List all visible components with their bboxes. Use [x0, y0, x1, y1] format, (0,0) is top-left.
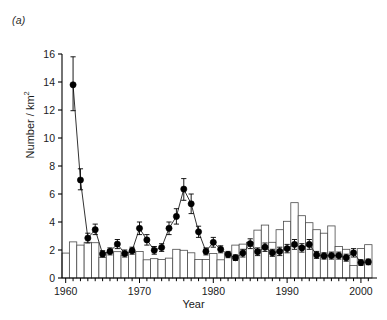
data-point	[262, 244, 268, 250]
data-point	[247, 241, 253, 247]
data-point	[92, 227, 98, 233]
data-point	[129, 248, 135, 254]
data-point	[114, 241, 120, 247]
data-point	[350, 250, 356, 256]
data-point	[269, 250, 275, 256]
bar	[173, 249, 180, 278]
figure-panel-a: (a) Number / km2 Year 024681012141619601…	[0, 0, 387, 320]
x-tick-label: 2000	[349, 285, 373, 297]
y-tick-label: 12	[43, 104, 55, 116]
bar	[232, 245, 239, 278]
data-point	[181, 186, 187, 192]
data-point	[100, 251, 106, 257]
bar	[195, 260, 202, 278]
bar	[217, 260, 224, 278]
data-point	[328, 253, 334, 259]
data-point	[277, 248, 283, 254]
y-tick-label: 10	[43, 132, 55, 144]
x-tick-label: 1990	[275, 285, 299, 297]
data-point	[136, 225, 142, 231]
bar	[99, 257, 106, 278]
y-tick-label: 4	[49, 216, 55, 228]
data-point	[365, 259, 371, 265]
x-tick-label: 1960	[54, 285, 78, 297]
data-point	[358, 260, 364, 266]
bar	[128, 253, 135, 278]
y-tick-label: 8	[49, 160, 55, 172]
data-point	[188, 201, 194, 207]
x-tick-label: 1970	[128, 285, 152, 297]
data-point	[299, 245, 305, 251]
data-point	[77, 177, 83, 183]
bar	[151, 259, 158, 278]
bar	[69, 242, 76, 278]
chart-plot-area: 024681012141619601970198019902000	[0, 0, 387, 320]
y-tick-label: 16	[43, 48, 55, 60]
bar	[187, 253, 194, 278]
bar	[202, 260, 209, 278]
y-tick-label: 6	[49, 188, 55, 200]
bar	[143, 260, 150, 278]
data-point	[203, 248, 209, 254]
bar	[269, 242, 276, 278]
bar	[114, 252, 121, 278]
bar-series	[62, 203, 372, 278]
data-point	[255, 249, 261, 255]
bar	[121, 255, 128, 278]
bar	[350, 265, 357, 278]
data-point	[306, 241, 312, 247]
data-point	[232, 255, 238, 261]
y-tick-label: 0	[49, 272, 55, 284]
data-point	[225, 251, 231, 257]
data-point	[218, 246, 224, 252]
data-point	[195, 229, 201, 235]
data-point	[336, 253, 342, 259]
data-point	[210, 239, 216, 245]
bar	[106, 253, 113, 278]
x-tick-label: 1980	[202, 285, 226, 297]
bar	[165, 258, 172, 278]
data-point	[240, 250, 246, 256]
data-point	[173, 213, 179, 219]
data-point	[291, 241, 297, 247]
bar	[62, 253, 69, 278]
data-point	[107, 248, 113, 254]
bar	[92, 243, 99, 278]
bar	[136, 251, 143, 278]
data-point	[166, 225, 172, 231]
data-point	[144, 237, 150, 243]
data-point	[314, 252, 320, 258]
bar	[210, 254, 217, 279]
data-point	[284, 246, 290, 252]
bar	[306, 223, 313, 278]
bar	[342, 249, 349, 278]
bar	[84, 242, 91, 278]
bar	[180, 250, 187, 278]
data-point	[321, 253, 327, 259]
y-tick-label: 14	[43, 76, 55, 88]
data-point	[122, 250, 128, 256]
data-point	[85, 235, 91, 241]
bar	[158, 260, 165, 278]
data-point	[151, 247, 157, 253]
data-point	[343, 255, 349, 261]
y-tick-label: 2	[49, 244, 55, 256]
data-point	[70, 82, 76, 88]
bar	[335, 247, 342, 279]
data-point	[159, 244, 165, 250]
bar	[77, 245, 84, 278]
